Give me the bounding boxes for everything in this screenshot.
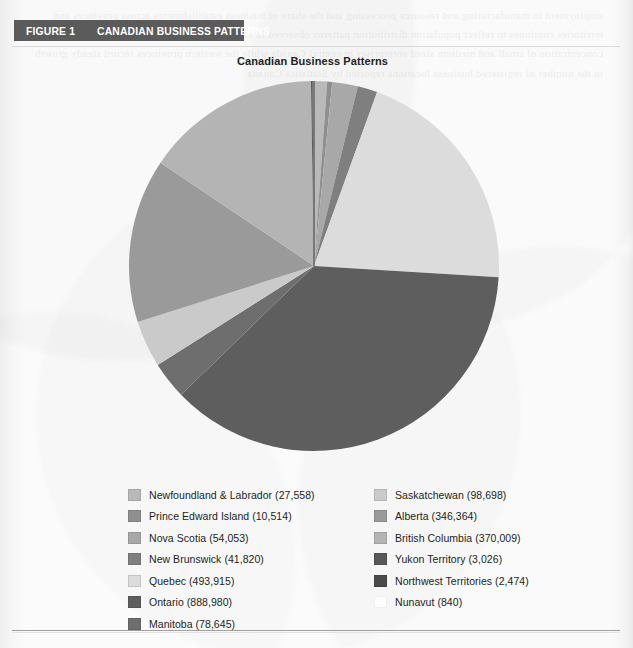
legend-color-swatch [374, 532, 387, 544]
legend-item-label: Ontario (888,980) [149, 596, 232, 608]
legend-item-label: Quebec (493,915) [149, 575, 234, 587]
legend-item-label: Nova Scotia (54,053) [149, 532, 249, 544]
legend-item: Newfoundland & Labrador (27,558) [128, 484, 373, 506]
pie-chart [128, 80, 500, 452]
legend-item-label: New Brunswick (41,820) [149, 553, 264, 565]
legend-item-label: Newfoundland & Labrador (27,558) [149, 489, 315, 501]
legend-item: Northwest Territories (2,474) [374, 570, 619, 592]
legend-color-swatch [128, 596, 141, 608]
legend-item-label: Nunavut (840) [395, 596, 462, 608]
legend-item-label: Alberta (346,364) [395, 510, 477, 522]
legend-color-swatch [374, 510, 387, 522]
legend-color-swatch [374, 575, 387, 587]
legend-color-swatch [374, 489, 387, 501]
legend-item: Nova Scotia (54,053) [128, 527, 373, 549]
legend-item-label: Yukon Territory (3,026) [395, 553, 502, 565]
legend-color-swatch [128, 532, 141, 544]
chart-title: Canadian Business Patterns [0, 55, 633, 67]
legend-color-swatch [128, 553, 141, 565]
legend-item: Nunavut (840) [374, 592, 619, 614]
legend-item-label: Prince Edward Island (10,514) [149, 510, 292, 522]
legend-color-swatch [128, 489, 141, 501]
legend-color-swatch [128, 510, 141, 522]
legend-item: Alberta (346,364) [374, 506, 619, 528]
legend-item: New Brunswick (41,820) [128, 549, 373, 571]
footer-divider-rule [12, 630, 620, 631]
pie-chart-svg [128, 80, 500, 452]
legend-item-label: British Columbia (370,009) [395, 532, 521, 544]
figure-number-label: FIGURE 1 [26, 25, 75, 37]
legend-item: Saskatchewan (98,698) [374, 484, 619, 506]
legend-column-left: Newfoundland & Labrador (27,558)Prince E… [128, 484, 373, 635]
legend-item-label: Northwest Territories (2,474) [395, 575, 529, 587]
legend-color-swatch [128, 618, 141, 630]
legend-column-right: Saskatchewan (98,698)Alberta (346,364)Br… [374, 484, 619, 613]
legend-item-label: Saskatchewan (98,698) [395, 489, 506, 501]
figure-title-label: CANADIAN BUSINESS PATTERNS [97, 25, 270, 37]
legend-item-label: Manitoba (78,645) [149, 618, 235, 630]
legend-color-swatch [374, 553, 387, 565]
pie-slice-group [129, 81, 499, 451]
legend-color-swatch [374, 596, 387, 608]
legend-item: Quebec (493,915) [128, 570, 373, 592]
legend-item: Prince Edward Island (10,514) [128, 506, 373, 528]
header-divider-rule [12, 46, 620, 47]
legend-item: Yukon Territory (3,026) [374, 549, 619, 571]
chart-legend: Newfoundland & Labrador (27,558)Prince E… [128, 484, 618, 624]
footer-divider-rule-shadow [12, 632, 620, 633]
legend-item: British Columbia (370,009) [374, 527, 619, 549]
legend-color-swatch [128, 575, 141, 587]
figure-header-bar: FIGURE 1 CANADIAN BUSINESS PATTERNS [14, 20, 244, 41]
legend-item: Ontario (888,980) [128, 592, 373, 614]
chart-title-text: Canadian Business Patterns [237, 55, 388, 67]
